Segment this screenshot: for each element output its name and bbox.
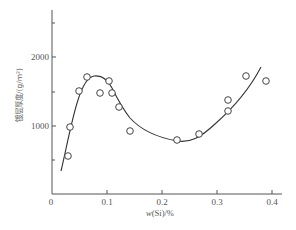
y-axis-title: 镀层厚度/(g/m²) — [14, 68, 24, 122]
x-tick-label-0.3: 0.3 — [211, 197, 223, 207]
x-tick-label-0: 0 — [49, 197, 54, 207]
y-tick-label-2000: 2000 — [31, 52, 50, 62]
x-tick-label-0.4: 0.4 — [266, 197, 278, 207]
x-axis-title: w(Si)/% — [146, 208, 174, 218]
fit-curve — [61, 67, 261, 171]
chart: 2000 1000 0 0.1 0.2 0.3 0.4 w(Si)/% 镀层厚度… — [0, 0, 296, 230]
x-tick-label-0.2: 0.2 — [156, 197, 167, 207]
data-points — [65, 73, 270, 160]
y-ticks — [52, 23, 56, 160]
y-tick-label-1000: 1000 — [31, 121, 50, 131]
x-ticks — [107, 190, 272, 194]
x-tick-label-0.1: 0.1 — [101, 197, 112, 207]
